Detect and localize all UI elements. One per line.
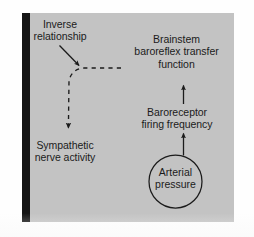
connector-inverse-relationship-pointer	[60, 46, 80, 66]
figure-root: Inverse relationship Brainstem barorefle…	[0, 0, 254, 237]
connector-brainstem-to-sympathetic	[68, 68, 121, 128]
label-sympathetic-nerve-activity: Sympathetic nerve activity	[13, 139, 117, 164]
label-inverse-relationship: Inverse relationship	[14, 18, 106, 43]
label-arterial-pressure: Arterial pressure	[148, 166, 203, 191]
label-baroreceptor-firing-frequency: Baroreceptor firing frequency	[124, 106, 230, 131]
label-brainstem-baroreflex-transfer-function: Brainstem baroreflex transfer function	[120, 33, 233, 70]
